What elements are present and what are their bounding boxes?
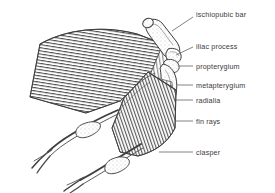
label-radialia: radialia (196, 97, 220, 105)
label-metapterygium: metapterygium (196, 82, 246, 90)
label-propterygium: propterygium (196, 63, 240, 71)
label-clasper: clasper (196, 149, 220, 157)
label-iliac-process: iliac process (196, 43, 238, 51)
anatomical-figure (0, 0, 275, 193)
label-fin-rays: fin rays (196, 118, 220, 126)
label-ischiopubic-bar: ischiopubic bar (196, 11, 246, 19)
